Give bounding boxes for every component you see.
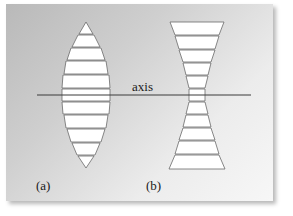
axis-label: axis — [132, 79, 153, 94]
panel-b-label: (b) — [146, 178, 161, 193]
panel-a-label: (a) — [36, 178, 50, 193]
lens-diagram: axis (a) (b) — [0, 0, 293, 216]
